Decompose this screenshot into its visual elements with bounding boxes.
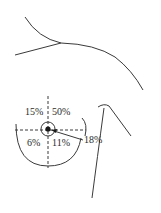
upper-contour-right (61, 43, 143, 90)
upper-contour-lower-left (15, 43, 61, 55)
label-upper-inner: 15% (25, 107, 43, 117)
label-lower-inner: 6% (27, 138, 40, 148)
label-lower-outer: 11% (52, 138, 70, 148)
arm-top-curve (98, 105, 131, 136)
upper-contour-left (25, 17, 61, 43)
label-upper-outer: 50% (52, 107, 70, 117)
torso-side-line (92, 108, 104, 198)
nipple (45, 126, 50, 131)
label-central: 18% (84, 135, 102, 145)
